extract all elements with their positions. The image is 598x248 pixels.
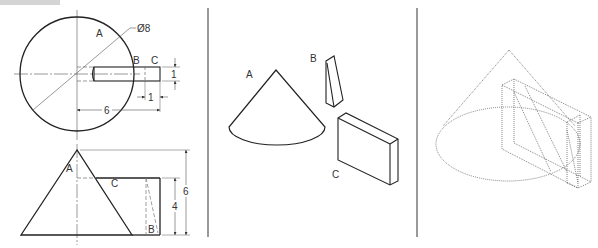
label-c-exploded: C	[332, 169, 339, 180]
offset-dimension: 6	[104, 105, 110, 116]
orthographic-panel: Ø8 A B C 1 1 6	[14, 10, 191, 245]
drawing-canvas: Ø8 A B C 1 1 6	[0, 0, 598, 248]
diameter-dimension: Ø8	[137, 23, 151, 34]
cone-base-ellipse-dotted	[436, 107, 580, 181]
label-a-front: A	[66, 163, 73, 174]
label-a-top: A	[96, 28, 103, 39]
diameter-leader	[33, 28, 130, 110]
slot-depth-dimension: 1	[148, 92, 154, 103]
label-c-front: C	[111, 178, 118, 189]
height-block-dimension: 4	[172, 201, 178, 212]
wedge-b	[326, 56, 343, 107]
cone-a	[229, 70, 325, 145]
wedge-dotted	[514, 86, 578, 183]
label-b-front: B	[148, 224, 155, 235]
block-c	[338, 113, 398, 185]
label-c-top: C	[151, 55, 158, 66]
top-view: Ø8 A B C 1 1 6	[14, 10, 180, 140]
label-b-top: B	[133, 55, 140, 66]
slot-width-dimension: 1	[171, 69, 177, 80]
cone-front-triangle	[21, 150, 132, 235]
height-total-dimension: 6	[183, 186, 189, 197]
label-b-exploded: B	[310, 53, 317, 64]
front-view: A C B 6 4	[21, 144, 191, 245]
block-dotted	[502, 79, 591, 188]
label-a-exploded: A	[246, 69, 253, 80]
cone-left-edge-dotted	[443, 50, 509, 126]
assembled-panel	[436, 50, 591, 188]
exploded-panel: A B C	[229, 53, 398, 185]
